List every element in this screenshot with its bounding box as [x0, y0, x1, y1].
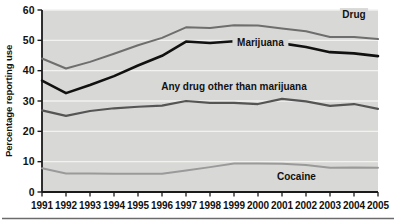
y-tick-label: 40	[23, 64, 35, 76]
x-tick-label: 1997	[175, 200, 198, 211]
y-tick-label: 60	[23, 4, 35, 16]
x-tick-label: 2004	[343, 200, 366, 211]
x-tick-label: 1994	[103, 200, 126, 211]
y-tick-label: 10	[23, 155, 35, 167]
x-tick-label: 1993	[79, 200, 102, 211]
y-tick-label: 20	[23, 125, 35, 137]
x-tick-label: 2002	[295, 200, 318, 211]
x-tick-label: 1998	[199, 200, 222, 211]
x-tick-label: 1999	[223, 200, 246, 211]
series-label-any-drug-other-than-marijuana: Any drug other than marijuana	[161, 81, 307, 92]
series-label-marijuana: Marijuana	[237, 37, 284, 48]
series-label-cocaine: Cocaine	[277, 171, 316, 182]
x-tick-label: 2005	[367, 200, 390, 211]
y-tick-label: 50	[23, 34, 35, 46]
y-tick-label: 0	[29, 186, 35, 198]
y-tick-label: 30	[23, 95, 35, 107]
x-tick-label: 2001	[271, 200, 294, 211]
x-tick-label: 1991	[31, 200, 54, 211]
y-axis-title-text: Percentage reporting use	[3, 45, 14, 157]
x-tick-label: 1996	[151, 200, 174, 211]
y-axis-title: Percentage reporting use	[3, 45, 14, 157]
x-tick-label: 1992	[55, 200, 78, 211]
x-tick-label: 2000	[247, 200, 270, 211]
x-tick-label: 1995	[127, 200, 150, 211]
chart-container: 0102030405060 19911992199319941995199619…	[0, 0, 396, 223]
line-chart: 0102030405060 19911992199319941995199619…	[0, 0, 396, 223]
series-label-drug: Drug	[342, 9, 365, 20]
x-tick-label: 2003	[319, 200, 342, 211]
